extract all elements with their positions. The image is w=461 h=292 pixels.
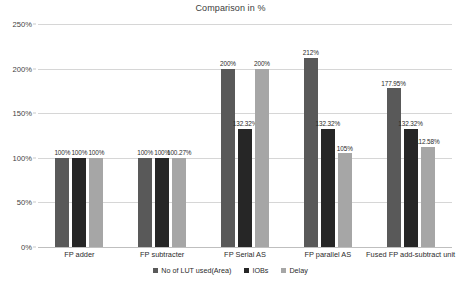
bar[interactable] [404,129,418,247]
y-axis-tick-mark [33,247,36,248]
legend-swatch-icon [244,268,249,273]
y-axis-tick-label: 150% [13,109,32,118]
bar-value-label: 132.32% [316,120,341,127]
bar[interactable] [387,88,401,247]
legend-item[interactable]: No of LUT used(Area) [153,266,231,275]
bar-value-label: 132.32% [233,120,258,127]
bar-group: 177.95%132.32%112.58% [369,24,452,247]
bar[interactable] [221,69,235,247]
y-axis-tick-mark [33,68,36,69]
y-axis-tick-mark [33,157,36,158]
bar-value-label: 100% [88,149,104,156]
bar-group: 200%132.32%200% [204,24,287,247]
legend-item[interactable]: IOBs [244,266,268,275]
bar[interactable] [138,158,152,247]
bar[interactable] [155,158,169,247]
bar-group: 100%100%100.27% [121,24,204,247]
bar[interactable] [72,158,86,247]
bar-group: 100%100%100% [38,24,121,247]
legend-swatch-icon [153,268,158,273]
y-axis-tick-label: 50% [17,198,32,207]
bar[interactable] [238,129,252,247]
legend-item[interactable]: Delay [281,266,307,275]
y-axis-tick-label: 100% [13,153,32,162]
bar-value-label: 112.58% [416,138,440,145]
y-axis-tick-label: 0% [21,243,32,252]
bar-value-label: 100% [54,149,70,156]
bar[interactable] [321,129,335,247]
bar-value-label: 100.27% [167,149,192,156]
x-axis-category-label: Fused FP add-subtract unit [366,250,455,259]
bar[interactable] [89,158,103,247]
chart-legend: No of LUT used(Area)IOBsDelay [0,266,461,275]
y-axis-tick-label: 250% [13,20,32,29]
bar[interactable] [55,158,69,247]
bar-value-label: 177.95% [381,80,406,87]
y-axis-tick-label: 200% [13,64,32,73]
bar-chart: Comparison in % 0%50%100%150%200%250% 10… [0,0,461,292]
bar-value-label: 132.32% [398,120,423,127]
x-axis-category-label: FP Serial AS [224,250,266,259]
y-axis-tick-mark [33,113,36,114]
legend-label: No of LUT used(Area) [161,266,231,275]
bar-value-label: 200% [220,60,236,67]
y-axis: 0%50%100%150%200%250% [0,24,36,247]
plot-area: 100%100%100%100%100%100.27%200%132.32%20… [38,24,452,247]
bar-value-label: 105% [337,145,353,152]
legend-swatch-icon [281,268,286,273]
bar-value-label: 212% [303,49,319,56]
x-axis-category-label: FP parallel AS [304,250,351,259]
bar-value-label: 100% [71,149,87,156]
legend-label: IOBs [252,266,268,275]
x-axis-line [38,247,452,248]
bar-group: 212%132.32%105% [286,24,369,247]
y-axis-tick-mark [33,24,36,25]
bar[interactable] [421,147,435,247]
bar[interactable] [172,158,186,247]
y-axis-tick-mark [33,202,36,203]
bar[interactable] [255,69,269,247]
bar-value-label: 100% [137,149,153,156]
bar[interactable] [304,58,318,247]
x-axis-category-label: FP subtracter [140,250,184,259]
bar[interactable] [338,153,352,247]
legend-label: Delay [289,266,307,275]
bar-value-label: 200% [254,60,270,67]
chart-title: Comparison in % [0,3,461,13]
x-axis-category-label: FP adder [64,250,94,259]
